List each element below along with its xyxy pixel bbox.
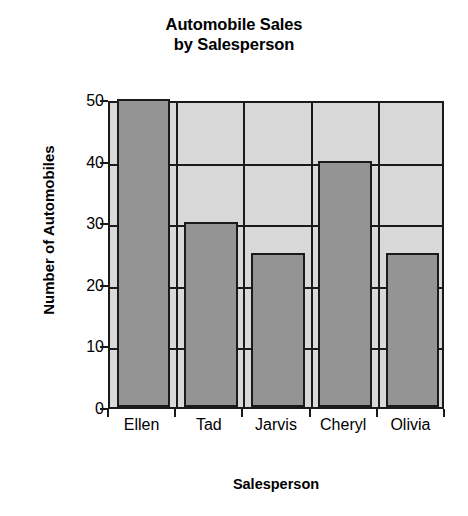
- x-axis-tick-mark: [241, 409, 243, 417]
- x-axis-tick-mark: [309, 409, 311, 417]
- x-axis-tick-mark: [174, 409, 176, 417]
- x-axis-tick-mark: [107, 409, 109, 417]
- x-axis-tick-mark: [376, 409, 378, 417]
- x-axis-title: Salesperson: [108, 476, 444, 492]
- x-axis-tick-marks: [0, 0, 468, 516]
- x-axis-tick-mark: [443, 409, 445, 417]
- bar-chart-figure: Automobile Sales by Salesperson Number o…: [0, 0, 468, 516]
